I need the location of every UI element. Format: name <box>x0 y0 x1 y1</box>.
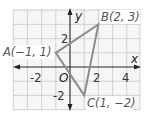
x-tick-2: 2 <box>93 71 100 85</box>
point-c-label: C(1, −2) <box>87 96 136 110</box>
y-axis-label: y <box>74 9 83 23</box>
origin-label: O <box>59 71 68 85</box>
y-tick-2: 2 <box>61 32 68 46</box>
x-tick-4: 4 <box>122 71 129 85</box>
point-a-label: A(−1, 1) <box>2 45 51 59</box>
coordinate-plane: y x -2 2 4 2 -2 O A(−1, 1) B(2, 3) C(1, … <box>0 0 149 118</box>
y-tick-neg2: -2 <box>53 89 64 103</box>
point-b-label: B(2, 3) <box>101 10 140 24</box>
x-axis-label: x <box>130 52 139 66</box>
x-tick-neg2: -2 <box>30 71 41 85</box>
